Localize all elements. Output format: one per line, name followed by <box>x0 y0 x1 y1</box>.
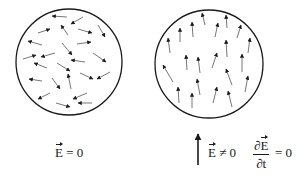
field-arrow <box>202 13 205 25</box>
field-arrow <box>57 63 70 71</box>
field-arrow <box>80 73 93 79</box>
field-arrow <box>29 79 42 81</box>
field-arrow <box>228 91 232 107</box>
field-arrow <box>213 87 217 103</box>
field-arrow <box>248 38 250 53</box>
fraction-denominator: ∂t <box>256 155 266 170</box>
boundary-circle <box>155 10 263 118</box>
fraction-numerator: ∂E <box>253 139 269 155</box>
field-arrow <box>93 53 106 62</box>
field-arrow <box>192 22 193 37</box>
field-arrow <box>68 74 71 89</box>
field-arrow <box>71 60 85 62</box>
field-arrow <box>198 57 200 73</box>
field-arrow <box>226 69 232 85</box>
nonzero-field-label: E ≠ 0 <box>208 146 236 159</box>
field-vector-symbol: E <box>55 146 63 159</box>
field-arrow <box>71 17 83 24</box>
field-arrow <box>38 93 50 99</box>
time-derivative-fraction: ∂E ∂t <box>253 139 269 170</box>
field-arrow <box>212 53 217 68</box>
field-arrow <box>197 79 200 95</box>
field-vector-symbol: E <box>208 146 216 159</box>
field-arrow <box>98 25 105 37</box>
field-arrow <box>163 65 173 82</box>
boundary-circle <box>16 9 122 115</box>
field-arrow <box>237 25 241 38</box>
field-arrow <box>168 38 170 53</box>
zero-field-label: E = 0 <box>55 146 83 159</box>
field-arrow <box>52 78 60 89</box>
random-field-panel <box>16 9 122 115</box>
field-arrow <box>52 16 67 17</box>
field-arrow <box>28 41 42 45</box>
field-arrow <box>78 29 92 33</box>
field-arrow <box>61 25 68 35</box>
field-arrow <box>245 76 248 92</box>
field-arrow <box>38 29 50 33</box>
derivative-equals-zero: = 0 <box>275 146 292 159</box>
field-arrow <box>226 15 227 28</box>
field-arrow <box>56 103 70 107</box>
aligned-field-panel <box>155 10 263 118</box>
field-arrow <box>226 40 227 57</box>
field-arrow <box>215 23 218 37</box>
field-arrow <box>97 72 110 79</box>
field-arrow <box>77 42 91 44</box>
field-arrow <box>62 43 72 55</box>
field-arrow <box>73 93 87 99</box>
field-arrow <box>34 63 47 68</box>
nonzero-field-equation: ≠ 0 <box>216 145 236 160</box>
field-arrow <box>23 55 36 59</box>
field-arrow <box>186 55 187 70</box>
field-arrow <box>178 87 179 103</box>
zero-field-equation: = 0 <box>63 145 83 160</box>
field-arrow <box>41 53 55 57</box>
